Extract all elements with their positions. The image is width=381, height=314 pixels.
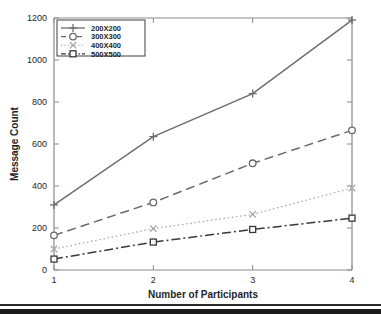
footer-rule-thin [0,304,381,306]
y-tick-label: 0 [42,265,47,275]
x-tick-label: 2 [151,275,156,285]
y-tick-label: 600 [32,139,47,149]
y-tick-label: 800 [32,97,47,107]
y-tick-label: 1200 [27,13,47,23]
y-axis-title: Message Count [9,106,20,181]
y-tick-label: 400 [32,181,47,191]
figure-container: 020040060080010001200 1234 Message Count… [0,0,381,314]
x-tick-label: 3 [250,275,255,285]
x-tick-label: 4 [349,275,354,285]
footer-rule-thick [0,309,381,314]
y-tick-label: 1000 [27,55,47,65]
legend-label: 500X500 [91,50,121,59]
x-tick-label: 1 [51,275,56,285]
y-tick-label: 200 [32,223,47,233]
x-axis-title: Number of Participants [148,289,258,300]
legend-item-500X500[interactable]: 500X500 [61,50,121,59]
chart-canvas: 020040060080010001200 1234 Message Count… [0,0,381,314]
legend: 200X200300X300400X400500X500 [57,20,145,59]
